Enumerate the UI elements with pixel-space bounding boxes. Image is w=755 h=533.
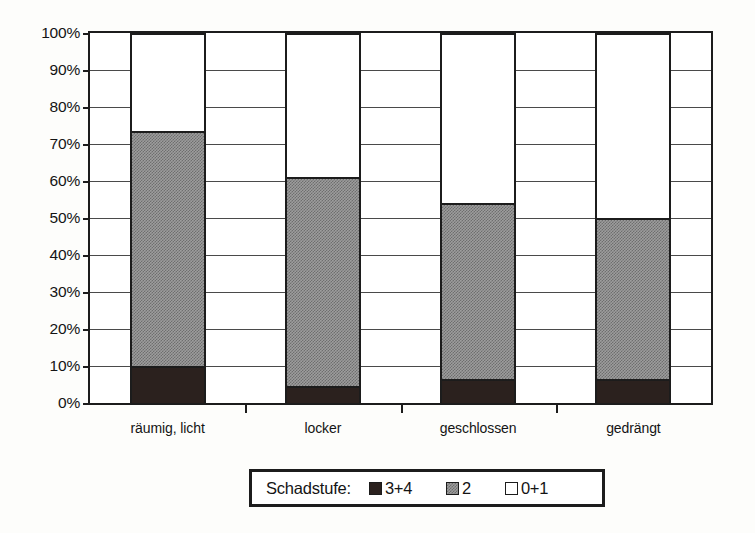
bar-segment-0-1 bbox=[130, 33, 206, 131]
y-tick-label: 80% bbox=[18, 99, 80, 115]
y-tick-mark bbox=[83, 70, 90, 72]
bar-segment-0-1 bbox=[595, 33, 671, 218]
chart-legend: Schadstufe: 3+420+1 bbox=[249, 469, 605, 507]
y-tick-label: 50% bbox=[18, 210, 80, 226]
gray-swatch-icon bbox=[446, 482, 459, 495]
bar-column bbox=[440, 33, 516, 403]
bar-segment-2 bbox=[595, 218, 671, 379]
legend-title: Schadstufe: bbox=[266, 479, 351, 498]
bar-segment-2 bbox=[130, 131, 206, 366]
y-tick-label: 60% bbox=[18, 173, 80, 189]
legend-entry: 0+1 bbox=[505, 479, 548, 498]
bar-segment-3-4 bbox=[130, 366, 206, 403]
y-tick-mark bbox=[83, 255, 90, 257]
white-swatch-icon bbox=[505, 482, 518, 495]
legend-label: 3+4 bbox=[385, 479, 412, 498]
y-tick-mark bbox=[83, 292, 90, 294]
x-category-label: räumig, licht bbox=[78, 421, 258, 435]
y-tick-label: 70% bbox=[18, 136, 80, 152]
x-tick-mark bbox=[245, 405, 247, 413]
y-tick-mark bbox=[83, 329, 90, 331]
x-axis-ticks bbox=[88, 405, 713, 415]
y-tick-mark bbox=[83, 181, 90, 183]
legend-entries: 3+420+1 bbox=[369, 479, 548, 498]
bar-column bbox=[285, 33, 361, 403]
x-category-label: locker bbox=[233, 421, 413, 435]
bar-segment-3-4 bbox=[440, 379, 516, 403]
legend-label: 0+1 bbox=[521, 479, 548, 498]
bar-segment-0-1 bbox=[440, 33, 516, 203]
bar-column bbox=[595, 33, 671, 403]
y-tick-label: 10% bbox=[18, 358, 80, 374]
bar-segment-2 bbox=[440, 203, 516, 379]
legend-entry: 2 bbox=[446, 479, 471, 498]
x-category-label: geschlossen bbox=[388, 421, 568, 435]
y-tick-label: 90% bbox=[18, 62, 80, 78]
chart-figure: 100%90%80%70%60%50%40%30%20%10%0% Schads… bbox=[0, 0, 755, 533]
x-category-label: gedrängt bbox=[543, 421, 723, 435]
y-tick-mark bbox=[83, 144, 90, 146]
bar-segment-3-4 bbox=[595, 379, 671, 403]
y-tick-mark bbox=[83, 33, 90, 35]
y-tick-label: 100% bbox=[18, 25, 80, 41]
bar-column bbox=[130, 33, 206, 403]
plot-area bbox=[88, 31, 713, 405]
bar-segment-0-1 bbox=[285, 33, 361, 177]
legend-entry: 3+4 bbox=[369, 479, 412, 498]
y-tick-label: 30% bbox=[18, 284, 80, 300]
bar-segment-2 bbox=[285, 177, 361, 386]
y-tick-label: 40% bbox=[18, 247, 80, 263]
black-swatch-icon bbox=[369, 482, 382, 495]
y-tick-mark bbox=[83, 107, 90, 109]
y-tick-mark bbox=[83, 366, 90, 368]
y-tick-mark bbox=[83, 218, 90, 220]
x-tick-mark bbox=[556, 405, 558, 413]
y-tick-label: 20% bbox=[18, 321, 80, 337]
bar-segment-3-4 bbox=[285, 386, 361, 403]
legend-label: 2 bbox=[462, 479, 471, 498]
y-tick-label: 0% bbox=[18, 395, 80, 411]
x-tick-mark bbox=[401, 405, 403, 413]
